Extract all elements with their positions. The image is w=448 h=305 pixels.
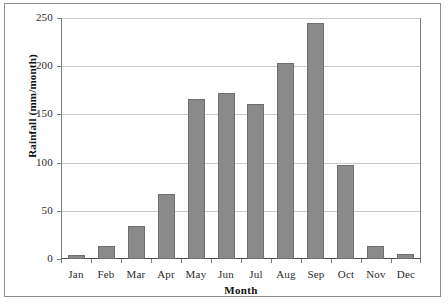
- bar-cell: [92, 19, 122, 259]
- x-tick-mark: [121, 259, 122, 263]
- bar-cell: [211, 19, 241, 259]
- x-tick-label-aug: Aug: [271, 267, 301, 283]
- x-tick-mark: [211, 259, 212, 263]
- x-tick-mark: [331, 259, 332, 263]
- y-tick-label: 100: [9, 157, 53, 168]
- bar-cell: [330, 19, 360, 259]
- bar-cell: [122, 19, 152, 259]
- x-tick-mark: [151, 259, 152, 263]
- x-tick-mark: [241, 259, 242, 263]
- bar-cell: [271, 19, 301, 259]
- x-tick-mark: [391, 259, 392, 263]
- x-tick-label-may: May: [181, 267, 211, 283]
- x-tick-label-feb: Feb: [91, 267, 121, 283]
- y-axis-ticks: 050100150200250: [5, 18, 61, 259]
- x-tick-mark: [181, 259, 182, 263]
- rainfall-bar-chart: Rainfall (mm/month) 050100150200250 JanF…: [0, 0, 448, 305]
- bar-cell: [181, 19, 211, 259]
- x-tick-cell: [391, 259, 421, 264]
- x-tick-cell: [121, 259, 151, 264]
- x-tick-mark: [301, 259, 302, 263]
- bar-cell: [241, 19, 271, 259]
- x-tick-cell: [271, 259, 301, 264]
- x-axis-title: Month: [61, 284, 421, 296]
- x-tick-label-nov: Nov: [361, 267, 391, 283]
- x-axis-labels: JanFebMarAprMayJunJulAugSepOctNovDec: [61, 267, 421, 283]
- x-tick-cell: [61, 259, 91, 264]
- bar-apr: [158, 194, 175, 259]
- bar-may: [188, 99, 205, 259]
- x-tick-label-jul: Jul: [241, 267, 271, 283]
- x-tick-cell: [301, 259, 331, 264]
- y-tick-label: 0: [9, 253, 53, 264]
- bar-jul: [247, 104, 264, 259]
- x-tick-cell: [91, 259, 121, 264]
- x-axis-ticks: [61, 259, 421, 264]
- bar-sep: [307, 23, 324, 259]
- bar-nov: [367, 246, 384, 259]
- y-tick-label: 50: [9, 205, 53, 216]
- x-tick-label-dec: Dec: [391, 267, 421, 283]
- bar-mar: [128, 226, 145, 259]
- bar-cell: [151, 19, 181, 259]
- bar-series: [62, 19, 420, 259]
- bar-feb: [98, 246, 115, 259]
- x-tick-label-jan: Jan: [61, 267, 91, 283]
- x-tick-mark: [61, 259, 62, 263]
- bar-aug: [277, 63, 294, 259]
- y-tick-label: 150: [9, 108, 53, 119]
- y-tick-label: 250: [9, 12, 53, 23]
- x-tick-cell: [181, 259, 211, 264]
- y-tick-label: 200: [9, 60, 53, 71]
- bar-cell: [62, 19, 92, 259]
- bar-cell: [360, 19, 390, 259]
- x-tick-label-jun: Jun: [211, 267, 241, 283]
- x-tick-mark: [420, 259, 421, 263]
- x-tick-cell: [211, 259, 241, 264]
- bar-cell: [301, 19, 331, 259]
- x-tick-label-oct: Oct: [331, 267, 361, 283]
- bar-oct: [337, 165, 354, 259]
- x-tick-cell: [331, 259, 361, 264]
- bar-jun: [218, 93, 235, 259]
- x-tick-cell: [241, 259, 271, 264]
- x-tick-cell: [361, 259, 391, 264]
- chart-frame: Rainfall (mm/month) 050100150200250 JanF…: [4, 3, 441, 297]
- x-tick-mark: [271, 259, 272, 263]
- bar-cell: [390, 19, 420, 259]
- x-tick-mark: [361, 259, 362, 263]
- x-tick-label-sep: Sep: [301, 267, 331, 283]
- x-tick-cell: [151, 259, 181, 264]
- x-tick-mark: [91, 259, 92, 263]
- x-tick-label-mar: Mar: [121, 267, 151, 283]
- x-tick-label-apr: Apr: [151, 267, 181, 283]
